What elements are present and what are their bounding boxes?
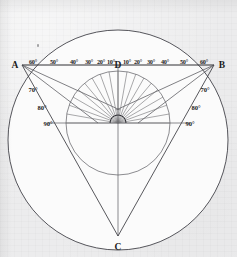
outer-degree-left-70: 70° — [28, 86, 38, 93]
outer-degree-left-90: 90° — [43, 120, 53, 127]
baseline-degree-left-40: 40° — [70, 58, 79, 65]
point-label-b: B — [219, 60, 226, 70]
baseline-degree-left-30: 30° — [85, 58, 94, 65]
baseline-degree-left-20: 20° — [97, 58, 106, 65]
outer-degree-right-80: 80° — [191, 104, 201, 111]
baseline-degree-right-20: 20° — [134, 58, 143, 65]
outer-degree-right-90: 90° — [185, 120, 195, 127]
baseline-degree-right-40: 40° — [161, 58, 170, 65]
angle-diagram-figure: A B D C 60° 50° 40° 30° 20° 10° 10° 20° … — [0, 0, 237, 257]
baseline-degree-left-10: 10° — [107, 58, 116, 65]
baseline-degree-right-50: 50° — [180, 58, 189, 65]
baseline-degree-right-10: 10° — [123, 58, 132, 65]
outer-degree-right-70: 70° — [200, 86, 210, 93]
baseline-degree-left-60: 60° — [29, 58, 38, 65]
point-label-a: A — [12, 60, 19, 70]
baseline-degree-right-60: 60° — [200, 58, 209, 65]
outer-degree-left-80: 80° — [37, 104, 47, 111]
point-label-c: C — [115, 242, 122, 252]
baseline-degree-left-50: 50° — [50, 58, 59, 65]
baseline-degree-right-30: 30° — [147, 58, 156, 65]
point-label-d: D — [115, 60, 122, 70]
diagram-canvas: A B D C 60° 50° 40° 30° 20° 10° 10° 20° … — [0, 0, 237, 257]
